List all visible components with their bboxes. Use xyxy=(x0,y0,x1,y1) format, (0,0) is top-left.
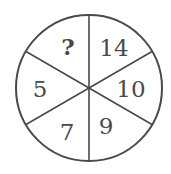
segment-bottom-left-value: 7 xyxy=(60,119,75,145)
number-wheel-diagram: ? 14 10 9 7 5 xyxy=(0,0,171,174)
segment-left-value: 5 xyxy=(33,76,48,102)
segment-right-value: 10 xyxy=(116,76,145,102)
segment-top-right-value: 14 xyxy=(99,35,128,61)
segment-bottom-right-value: 9 xyxy=(99,113,114,139)
segment-top-left-value: ? xyxy=(61,33,74,60)
